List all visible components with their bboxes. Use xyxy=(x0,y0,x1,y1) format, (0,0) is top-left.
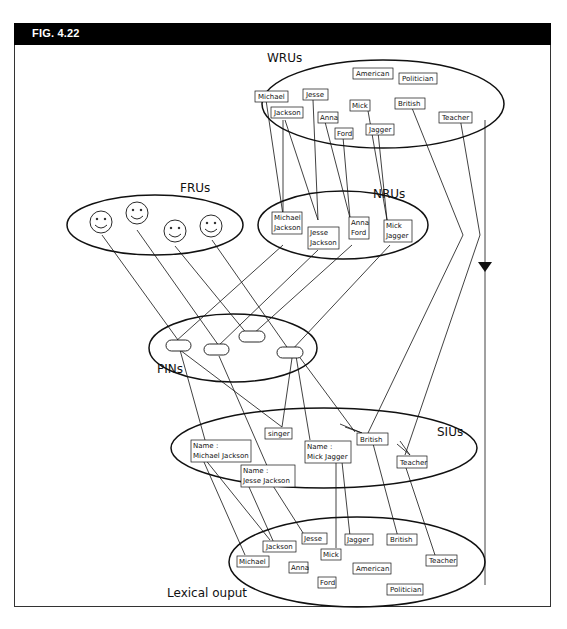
wru-word: Jagger xyxy=(366,124,394,135)
wru-word: American xyxy=(353,68,393,79)
svg-text:Ford: Ford xyxy=(337,130,352,138)
pin-node xyxy=(239,331,265,342)
siu-british: British xyxy=(357,433,388,445)
lexical-word: Politician xyxy=(387,584,423,595)
lexical-word: Michael xyxy=(237,556,269,567)
svg-text:Anna: Anna xyxy=(291,564,309,572)
svg-text:British: British xyxy=(390,536,412,544)
wrus-label: WRUs xyxy=(267,51,302,65)
svg-text:Ford: Ford xyxy=(351,229,366,237)
svg-text:Jesse Jackson: Jesse Jackson xyxy=(242,477,290,485)
svg-text:Anna: Anna xyxy=(320,114,338,122)
svg-text:Politician: Politician xyxy=(390,586,421,594)
svg-text:Ford: Ford xyxy=(320,579,335,587)
face-units xyxy=(90,202,222,242)
svg-text:Jagger: Jagger xyxy=(368,126,392,134)
siu-name-michael-jackson: Name :Michael Jackson xyxy=(191,440,251,462)
face-icon xyxy=(126,202,148,224)
wru-word: Ford xyxy=(335,128,353,139)
lexical-word: British xyxy=(387,534,417,545)
svg-text:Mick: Mick xyxy=(323,551,340,559)
wru-word: Jesse xyxy=(303,89,328,100)
svg-text:Politician: Politician xyxy=(402,75,433,83)
arrow-down-icon xyxy=(478,262,492,272)
svg-text:Jagger: Jagger xyxy=(346,536,370,544)
siu-name-mick-jagger: Name :Mick Jagger xyxy=(305,441,351,463)
lexical-word: Jagger xyxy=(345,534,373,545)
svg-text:Michael: Michael xyxy=(274,214,301,222)
svg-text:Teacher: Teacher xyxy=(399,459,427,467)
face-icon xyxy=(90,211,112,233)
svg-text:Teacher: Teacher xyxy=(428,557,456,565)
svg-text:Michael: Michael xyxy=(239,558,266,566)
pins-label: PINs xyxy=(157,362,183,376)
lexical-word: Teacher xyxy=(426,555,457,566)
lexical-label: Lexical ouput xyxy=(167,586,247,600)
wru-word: British xyxy=(395,98,425,109)
nru-name: MichaelJackson xyxy=(272,212,302,234)
model-diagram: WRUs FRUs NRUs PINs SIUs Lexical ouput A… xyxy=(0,0,567,629)
svg-text:Jesse: Jesse xyxy=(309,229,328,237)
wru-word: Teacher xyxy=(439,112,472,123)
wru-word: Jackson xyxy=(271,107,303,118)
svg-text:British: British xyxy=(398,100,420,108)
face-icon xyxy=(200,215,222,237)
nru-name: AnnaFord xyxy=(349,217,369,239)
nrus-label: NRUs xyxy=(373,187,405,201)
siu-name-jesse-jackson: Name :Jesse Jackson xyxy=(241,465,295,487)
sius-label: SIUs xyxy=(437,425,463,439)
face-icon xyxy=(164,220,186,242)
svg-text:Anna: Anna xyxy=(351,219,369,227)
svg-text:Teacher: Teacher xyxy=(441,114,469,122)
svg-text:Jagger: Jagger xyxy=(385,232,409,240)
svg-text:Name :: Name : xyxy=(193,442,218,450)
wru-word: Michael xyxy=(255,91,288,102)
svg-text:singer: singer xyxy=(268,430,290,438)
svg-text:American: American xyxy=(356,565,389,573)
svg-text:Michael Jackson: Michael Jackson xyxy=(193,452,249,460)
pin-node xyxy=(204,344,229,355)
siu-teacher: Teacher xyxy=(397,456,427,468)
lexical-word: Mick xyxy=(321,549,341,560)
frus-label: FRUs xyxy=(180,181,210,195)
pin-node xyxy=(277,347,303,358)
lexical-word: Ford xyxy=(318,577,336,588)
svg-text:Name :: Name : xyxy=(307,443,332,451)
svg-text:British: British xyxy=(360,436,382,444)
svg-text:American: American xyxy=(356,70,389,78)
pin-node xyxy=(166,340,191,351)
nru-name: JesseJackson xyxy=(308,227,339,249)
wru-word: Politician xyxy=(399,73,437,84)
svg-text:Jackson: Jackson xyxy=(273,224,301,232)
lexical-word: Anna xyxy=(289,562,309,573)
svg-text:Jesse: Jesse xyxy=(305,91,324,99)
wru-word: Anna xyxy=(318,112,338,123)
svg-text:Mick: Mick xyxy=(352,102,369,110)
nru-name: MickJagger xyxy=(384,220,412,242)
wru-word: Mick xyxy=(350,100,370,111)
svg-text:Michael: Michael xyxy=(258,93,285,101)
svg-text:Jackson: Jackson xyxy=(265,543,293,551)
svg-text:Mick Jagger: Mick Jagger xyxy=(307,453,348,461)
siu-singer: singer xyxy=(265,428,292,439)
lexical-word: Jesse xyxy=(302,533,327,544)
svg-text:Jackson: Jackson xyxy=(273,109,301,117)
svg-text:Mick: Mick xyxy=(386,222,403,230)
svg-text:Jesse: Jesse xyxy=(303,535,322,543)
lexical-word: American xyxy=(353,563,391,574)
svg-text:Name :: Name : xyxy=(243,467,268,475)
svg-text:Jackson: Jackson xyxy=(309,239,337,247)
lexical-word: Jackson xyxy=(263,541,296,552)
